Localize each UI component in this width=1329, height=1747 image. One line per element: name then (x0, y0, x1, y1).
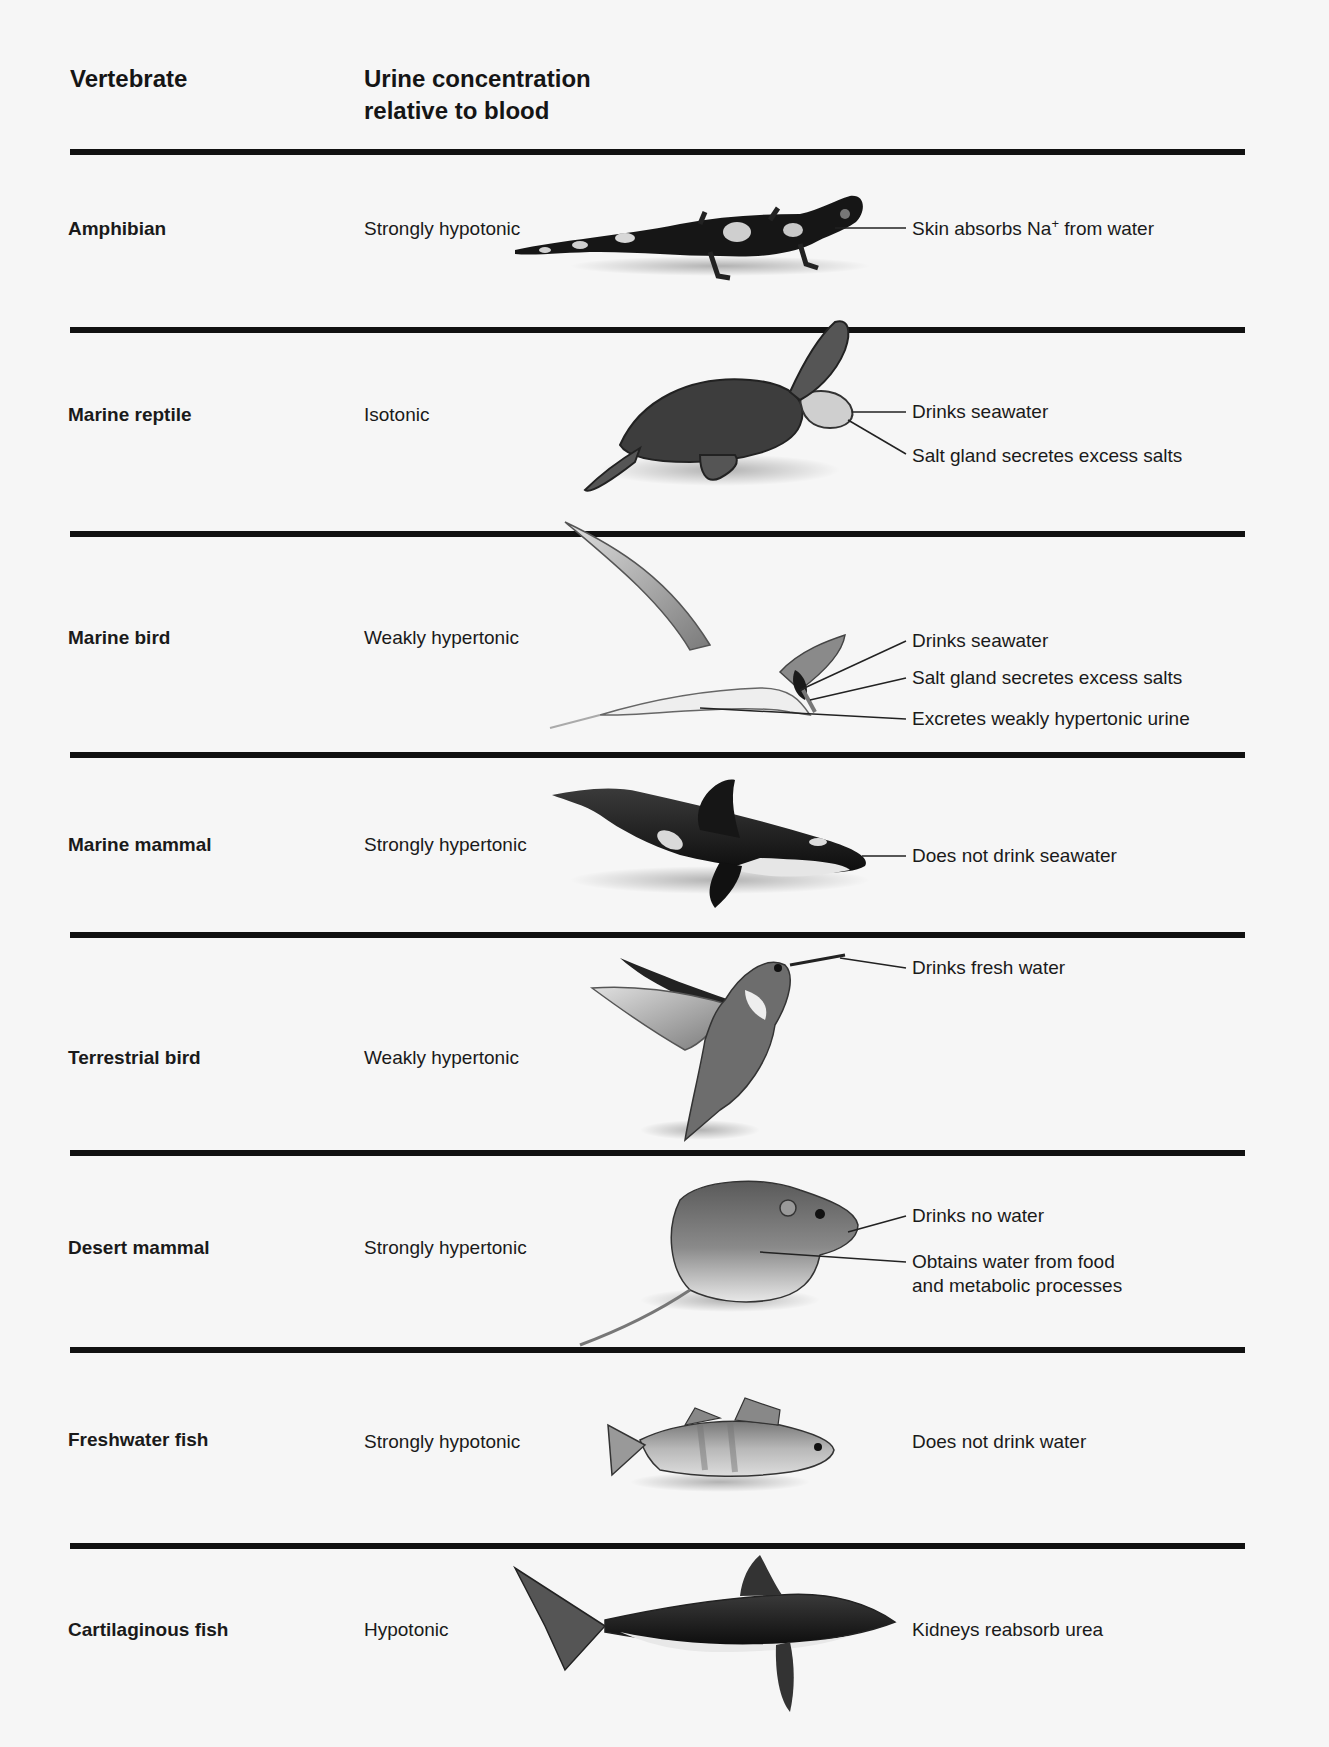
kangaroo-rat-icon (580, 1181, 858, 1345)
concentration-terrestrial-bird: Weakly hypertonic (364, 1047, 519, 1069)
note-marine-bird-3: Excretes weakly hypertonic urine (912, 707, 1190, 731)
concentration-amphibian: Strongly hypotonic (364, 218, 520, 240)
tern-icon (550, 522, 845, 728)
hummingbird-icon (592, 955, 845, 1140)
callout-line (810, 678, 906, 700)
concentration-marine-mammal: Strongly hypertonic (364, 834, 527, 856)
note-marine-bird-1: Drinks seawater (912, 629, 1048, 653)
note-marine-bird-2: Salt gland secretes excess salts (912, 666, 1182, 690)
illustrations-layer (0, 0, 1329, 1747)
vertebrate-label-marine-bird: Marine bird (68, 627, 170, 649)
row-divider (70, 1347, 1245, 1353)
concentration-marine-reptile: Isotonic (364, 404, 429, 426)
note-desert-mammal-1: Drinks no water (912, 1204, 1044, 1228)
row-divider (70, 932, 1245, 938)
row-divider (70, 531, 1245, 537)
callout-line (800, 641, 906, 690)
vertebrate-label-terrestrial-bird: Terrestrial bird (68, 1047, 201, 1069)
concentration-freshwater-fish: Strongly hypotonic (364, 1431, 520, 1453)
column-header-line-1: Urine concentration (364, 63, 591, 95)
note-cartilaginous-fish-1: Kidneys reabsorb urea (912, 1618, 1103, 1642)
row-divider (70, 752, 1245, 758)
vertebrate-label-marine-mammal: Marine mammal (68, 834, 212, 856)
header-divider (70, 149, 1245, 155)
concentration-marine-bird: Weakly hypertonic (364, 627, 519, 649)
concentration-cartilaginous-fish: Hypotonic (364, 1619, 449, 1641)
note-marine-reptile-2: Salt gland secretes excess salts (912, 444, 1182, 468)
vertebrate-label-marine-reptile: Marine reptile (68, 404, 192, 426)
note-line-1: Obtains water from food (912, 1250, 1122, 1274)
row-divider (70, 327, 1245, 333)
vertebrate-label-cartilaginous-fish: Cartilaginous fish (68, 1619, 228, 1641)
vertebrate-label-desert-mammal: Desert mammal (68, 1237, 210, 1259)
callout-line (700, 708, 906, 719)
column-header-urine-concentration: Urine concentration relative to blood (364, 63, 591, 127)
callout-line (840, 958, 906, 968)
vertebrate-label-freshwater-fish: Freshwater fish (68, 1429, 208, 1451)
note-marine-mammal-1: Does not drink seawater (912, 844, 1117, 868)
row-divider (70, 1543, 1245, 1549)
vertebrate-label-amphibian: Amphibian (68, 218, 166, 240)
note-line-2: and metabolic processes (912, 1274, 1122, 1298)
row-divider (70, 1150, 1245, 1156)
note-text: Skin absorbs Na (912, 218, 1051, 239)
perch-icon (608, 1398, 834, 1492)
note-superscript: + (1051, 216, 1059, 231)
sea-turtle-icon (585, 321, 852, 490)
orca-icon (552, 780, 870, 908)
callout-line (760, 1252, 906, 1262)
note-freshwater-fish-1: Does not drink water (912, 1430, 1086, 1454)
shark-icon (515, 1555, 895, 1712)
note-amphibian-1: Skin absorbs Na+ from water (912, 217, 1154, 241)
salamander-icon (515, 196, 870, 278)
column-header-vertebrate: Vertebrate (70, 63, 187, 95)
note-terrestrial-bird-1: Drinks fresh water (912, 956, 1065, 980)
note-text: from water (1059, 218, 1154, 239)
note-desert-mammal-2: Obtains water from food and metabolic pr… (912, 1250, 1122, 1298)
callout-line (848, 1216, 906, 1232)
column-header-line-2: relative to blood (364, 95, 591, 127)
note-marine-reptile-1: Drinks seawater (912, 400, 1048, 424)
concentration-desert-mammal: Strongly hypertonic (364, 1237, 527, 1259)
callout-line (848, 420, 906, 454)
